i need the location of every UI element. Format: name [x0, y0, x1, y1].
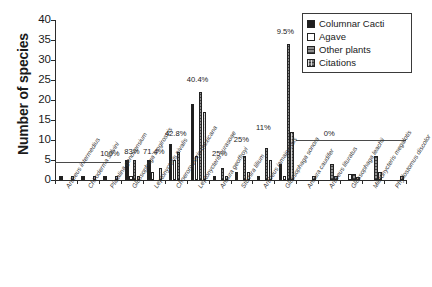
legend-label-citations: Citations: [319, 58, 356, 68]
x-axis-tick-mark: [231, 180, 232, 184]
x-axis-tick-mark: [99, 180, 100, 184]
x-axis-tick-mark: [384, 180, 385, 184]
y-axis-title: Number of species: [15, 19, 31, 169]
bar: [103, 176, 106, 180]
legend-label-agave: Agave: [319, 32, 346, 42]
bar: [199, 92, 202, 180]
bar: [59, 176, 62, 180]
y-axis-tick-mark: [51, 40, 55, 41]
percent-annotation: 11%: [256, 124, 271, 132]
reference-line: [55, 162, 121, 163]
x-axis-tick-mark: [340, 180, 341, 184]
x-axis-tick-mark: [143, 180, 144, 184]
x-axis-tick-mark: [406, 180, 407, 184]
legend-swatch-icon-agave: [307, 33, 315, 41]
x-axis-tick-mark: [252, 180, 253, 184]
bar: [151, 172, 154, 180]
x-axis-tick-mark: [296, 180, 297, 184]
legend-swatch-icon-citations: [307, 59, 315, 67]
percent-annotation: 9.5%: [277, 28, 294, 36]
bar: [287, 44, 290, 180]
y-axis-tick-mark: [51, 60, 55, 61]
x-axis-tick-mark: [121, 180, 122, 184]
bar: [235, 172, 238, 180]
percent-annotation: 40.4%: [187, 76, 209, 84]
y-axis-tick-mark: [51, 120, 55, 121]
y-axis-tick-label: 40: [38, 14, 51, 26]
legend-label-other-plants: Other plants: [319, 45, 371, 55]
percent-annotation: 25%: [234, 136, 249, 144]
y-axis-tick-mark: [51, 140, 55, 141]
x-axis-tick-mark: [362, 180, 363, 184]
x-axis-tick-mark: [55, 180, 56, 184]
x-axis-tick-mark: [77, 180, 78, 184]
y-axis-tick-label: 10: [38, 134, 51, 146]
y-axis-tick-mark: [51, 80, 55, 81]
y-axis-tick-label: 20: [38, 94, 51, 106]
chart-legend: Columnar Cacti Agave Other plants Citati…: [302, 13, 412, 73]
bar: [257, 176, 260, 180]
y-axis-tick-mark: [51, 20, 55, 21]
y-axis-tick-label: 15: [38, 114, 51, 126]
legend-item-agave[interactable]: Agave: [307, 30, 407, 43]
legend-item-other-plants[interactable]: Other plants: [307, 43, 407, 56]
y-axis-tick-mark: [51, 100, 55, 101]
x-axis-tick-mark: [318, 180, 319, 184]
bar: [129, 176, 132, 180]
bar: [81, 176, 84, 180]
bar-group: [59, 20, 74, 180]
x-axis-tick-mark: [209, 180, 210, 184]
legend-item-columnar-cacti[interactable]: Columnar Cacti: [307, 17, 407, 30]
x-axis-tick-mark: [187, 180, 188, 184]
y-axis-tick-label: 25: [38, 74, 51, 86]
legend-swatch-icon-columnar-cacti: [307, 20, 315, 28]
legend-label-columnar-cacti: Columnar Cacti: [319, 19, 384, 29]
bar: [213, 176, 216, 180]
legend-swatch-icon-other-plants: [307, 46, 315, 54]
x-axis-tick-mark: [165, 180, 166, 184]
percent-annotation: 0%: [324, 130, 335, 138]
y-axis-tick-label: 35: [38, 34, 51, 46]
x-axis-tick-mark: [274, 180, 275, 184]
legend-item-citations[interactable]: Citations: [307, 56, 407, 69]
y-axis-tick-label: 30: [38, 54, 51, 66]
bar: [348, 174, 351, 180]
